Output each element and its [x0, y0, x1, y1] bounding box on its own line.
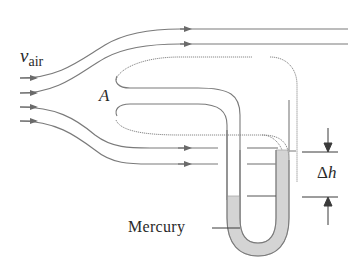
- arrow-down-icon: [324, 143, 332, 152]
- streamline-2: [20, 44, 348, 93]
- streamline-4: [20, 121, 218, 164]
- air-velocity-label: vair: [20, 46, 43, 65]
- streamline-1: [20, 29, 348, 78]
- arrow-up-icon: [324, 197, 332, 206]
- pitot-outer-tube: [116, 57, 297, 182]
- mercury-label: Mercury: [128, 219, 185, 235]
- delta-symbol: Δ: [317, 163, 328, 182]
- pitot-tube-diagram: vair A Mercury Δh: [0, 0, 357, 263]
- streamlines-upper: [20, 29, 348, 93]
- point-a-label: A: [99, 87, 109, 104]
- delta-h-label: Δh: [317, 164, 336, 181]
- mercury-fill: [227, 150, 289, 256]
- velocity-subscript: air: [28, 54, 43, 69]
- streamline-arrows-upper: [20, 29, 190, 93]
- height-symbol: h: [328, 163, 337, 182]
- u-tube-manometer: [227, 100, 296, 256]
- streamline-arrows-lower: [20, 107, 190, 164]
- streamlines-lower: [20, 107, 278, 164]
- streamline-3: [20, 107, 218, 148]
